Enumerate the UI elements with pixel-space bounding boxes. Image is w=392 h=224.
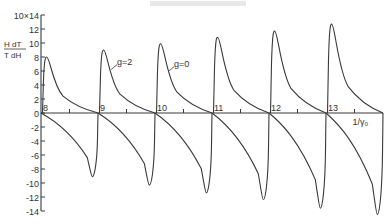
annotation-leader: [168, 67, 174, 72]
y-tick-label: -6: [31, 151, 39, 161]
annotation-label: g=2: [117, 57, 132, 67]
annotation-leader: [111, 65, 117, 70]
y-tick-label: 4: [34, 81, 39, 91]
x-tick-label: 8: [43, 103, 48, 113]
y-tick-label: 2: [34, 95, 39, 105]
y-tick-label: 10: [29, 39, 39, 49]
y-tick-label: -8: [31, 165, 39, 175]
y-axis-label-numerator: H dT: [4, 40, 21, 49]
x-tick-label: 13: [328, 103, 338, 113]
y-tick-label: 10×14: [14, 11, 39, 21]
curve-upper-branch: [271, 31, 327, 113]
curve-lower-branch: [155, 113, 212, 193]
curve-lower-branch: [212, 113, 269, 200]
curve-lower-branch: [98, 113, 155, 185]
curve-lower-branch: [41, 113, 98, 177]
annotation-label: g=0: [174, 59, 189, 69]
x-tick-label: 12: [271, 103, 281, 113]
curve-upper-branch: [214, 37, 270, 113]
y-tick-label: 6: [34, 67, 39, 77]
y-tick-label: -4: [31, 137, 39, 147]
x-tick-label: 9: [100, 103, 105, 113]
y-tick-label: 8: [34, 53, 39, 63]
y-tick-label: -14: [26, 207, 39, 217]
curve-lower-branch: [326, 113, 383, 215]
y-tick-label: -10: [26, 179, 39, 189]
chart: 10×14121086420-2-4-6-8-10-12-14891011121…: [0, 0, 392, 224]
y-tick-label: -2: [31, 123, 39, 133]
curve-lower-branch: [269, 113, 326, 208]
curve-upper-branch: [43, 57, 99, 113]
x-axis-label: 1/γ₀: [353, 117, 369, 127]
curves: [41, 24, 383, 214]
x-tick-label: 11: [214, 103, 223, 113]
y-tick-label: -12: [26, 193, 39, 203]
curve-upper-branch: [328, 24, 384, 113]
y-tick-label: 0: [34, 109, 39, 119]
y-tick-label: 12: [29, 25, 39, 35]
x-tick-label: 10: [157, 103, 167, 113]
y-axis-label-denominator: T dH: [4, 51, 21, 60]
